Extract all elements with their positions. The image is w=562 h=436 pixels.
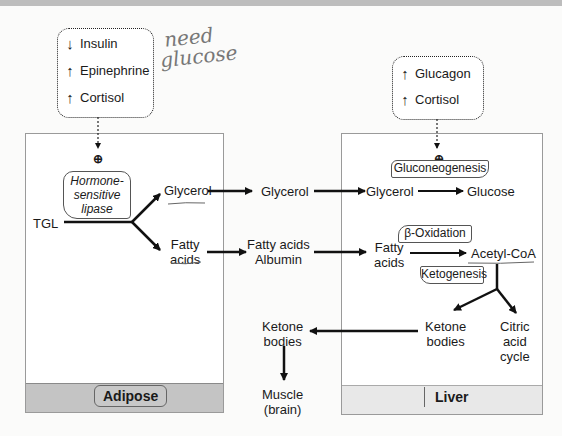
pathway-arrows — [0, 0, 562, 436]
